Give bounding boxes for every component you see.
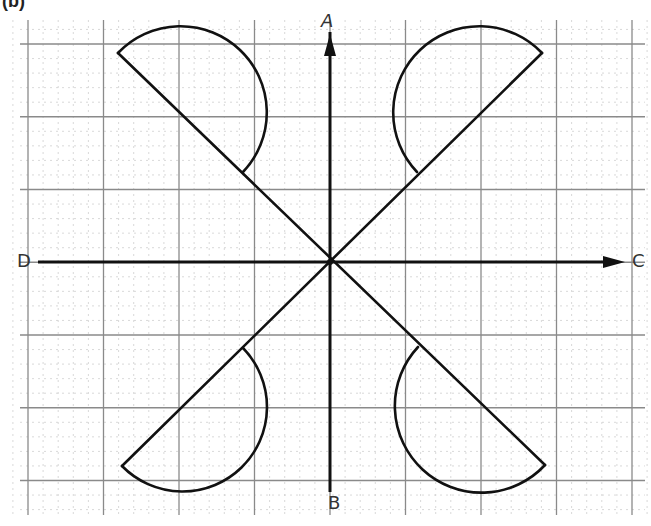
origin-point [327, 259, 333, 265]
axis-label-c: C [632, 252, 645, 270]
figure-label: (b) [2, 0, 25, 12]
semicircle-top-right [393, 26, 542, 172]
arrowhead-up-icon [324, 34, 336, 56]
axis-label-a: A [321, 12, 333, 30]
grid-major-lines [20, 20, 645, 515]
semicircle-bottom-left [122, 348, 267, 491]
axis-label-d: D [17, 252, 31, 270]
diagonal-ne-sw [122, 53, 542, 466]
semicircle-bottom-right [395, 347, 545, 493]
axis-label-b: B [328, 494, 340, 512]
diagram-canvas: (b) A B C D [0, 0, 651, 526]
arrowhead-right-icon [603, 256, 625, 268]
axes [38, 32, 625, 492]
graph-paper-diagram [0, 0, 651, 526]
semicircle-top-left [118, 26, 267, 172]
